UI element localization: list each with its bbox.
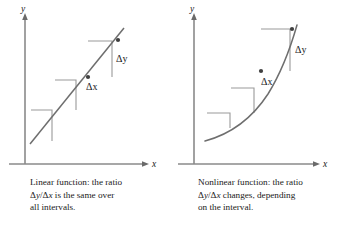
y-axis-label: y — [189, 4, 195, 14]
delta-y-label: Δy — [116, 53, 127, 64]
linear-function-line — [30, 28, 124, 144]
step-triangle-3-labeled — [261, 29, 290, 71]
data-point-lower — [86, 75, 90, 79]
data-point-lower — [259, 69, 263, 73]
y-axis-group — [191, 13, 197, 164]
panel-linear-function: y x Δy Δx Linear function: the ratio Δy/… — [0, 0, 169, 234]
y-axis-arrowhead — [191, 13, 197, 20]
caption-line-1: Nonlinear function: the ratio — [198, 177, 303, 187]
delta-x-label: Δx — [261, 76, 272, 87]
nonlinear-function-plot: y x Δy Δx — [169, 0, 338, 176]
caption-line-1: Linear function: the ratio — [30, 177, 122, 187]
caption-line-3: on the interval. — [198, 202, 253, 212]
x-axis-arrowhead — [313, 161, 320, 167]
x-axis-group — [178, 161, 320, 167]
step-triangle-2 — [55, 80, 76, 110]
nonlinear-function-curve — [205, 25, 297, 141]
caption-linear: Linear function: the ratio Δy/Δx is the … — [30, 176, 170, 214]
caption-nonlinear: Nonlinear function: the ratio Δy/Δx chan… — [198, 176, 338, 214]
figure-container: y x Δy Δx Linear function: the ratio Δy/… — [0, 0, 338, 234]
caption-line-2: Δy/Δx changes, depending — [198, 190, 295, 200]
step-triangles-group — [31, 41, 112, 141]
step-triangles-group — [207, 29, 290, 128]
step-triangle-1 — [207, 113, 230, 128]
data-point-upper — [290, 27, 294, 31]
caption-line-2-tail: is the same over — [53, 190, 115, 200]
caption-line-2: Δy/Δx is the same over — [30, 190, 114, 200]
delta-y-label: Δy — [295, 44, 306, 55]
caption-line-3: all intervals. — [30, 202, 75, 212]
linear-function-plot: y x Δy Δx — [0, 0, 169, 176]
panel-nonlinear-function: y x Δy Δx Nonlinear function: the ratio … — [169, 0, 338, 234]
x-axis-label: x — [322, 159, 328, 169]
y-axis-label: y — [20, 4, 26, 14]
delta-x-label: Δx — [86, 81, 97, 92]
step-triangle-1 — [31, 110, 52, 141]
y-axis-group — [22, 13, 28, 164]
y-axis-arrowhead — [22, 13, 28, 20]
x-axis-label: x — [151, 159, 157, 169]
caption-line-2-tail: changes, depending — [221, 190, 296, 200]
data-point-upper — [116, 38, 120, 42]
x-axis-group — [9, 161, 149, 167]
x-axis-arrowhead — [142, 161, 149, 167]
step-triangle-2 — [231, 88, 254, 113]
